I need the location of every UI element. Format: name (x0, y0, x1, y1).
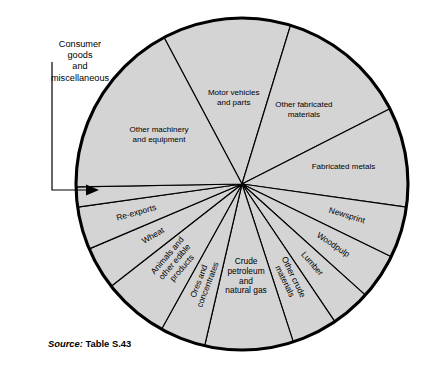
source-note: Source: Table S.43 (48, 338, 131, 349)
source-reference: Table S.43 (86, 338, 132, 349)
pie-chart-figure: Motor vehiclesand partsOther fabricatedm… (0, 0, 424, 379)
source-prefix: Source: (48, 338, 83, 349)
pie-chart-svg: Motor vehiclesand partsOther fabricatedm… (0, 0, 424, 379)
pie-slices-group (76, 18, 408, 350)
pie-slice-label: Fabricated metals (312, 162, 376, 171)
pie-slice-label: Other machineryand equipment (129, 125, 188, 144)
callout-label-text: Consumergoodsandmiscellaneous (51, 39, 110, 83)
